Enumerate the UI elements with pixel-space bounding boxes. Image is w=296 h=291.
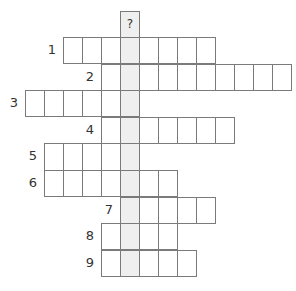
clue-number-9: 9 (74, 255, 94, 270)
answer-cell[interactable] (82, 143, 102, 170)
answer-cell[interactable] (158, 197, 178, 224)
answer-cell[interactable] (139, 64, 159, 91)
keyword-cell[interactable] (120, 117, 140, 144)
answer-cell[interactable] (234, 64, 254, 91)
answer-cell[interactable] (101, 170, 121, 197)
answer-cell[interactable] (63, 143, 83, 170)
keyword-cell[interactable] (120, 37, 140, 64)
answer-cell[interactable] (101, 117, 121, 144)
answer-cell[interactable] (139, 223, 159, 250)
answer-cell[interactable] (177, 37, 197, 64)
clue-number-4: 4 (74, 122, 94, 137)
answer-cell[interactable] (63, 90, 83, 117)
answer-cell[interactable] (101, 37, 121, 64)
clue-number-1: 1 (36, 42, 56, 57)
crossword-puzzle: ?123456789 (0, 0, 296, 291)
answer-cell[interactable] (101, 90, 121, 117)
answer-cell[interactable] (101, 64, 121, 91)
answer-cell[interactable] (158, 250, 178, 277)
answer-cell[interactable] (44, 90, 64, 117)
answer-cell[interactable] (82, 90, 102, 117)
answer-cell[interactable] (158, 37, 178, 64)
answer-cell[interactable] (196, 64, 216, 91)
answer-cell[interactable] (101, 223, 121, 250)
answer-cell[interactable] (139, 197, 159, 224)
answer-cell[interactable] (272, 64, 292, 91)
clue-number-5: 5 (17, 148, 37, 163)
keyword-hint-cell: ? (120, 11, 140, 38)
keyword-cell[interactable] (120, 143, 140, 170)
answer-cell[interactable] (101, 143, 121, 170)
clue-number-7: 7 (93, 202, 113, 217)
keyword-cell[interactable] (120, 64, 140, 91)
keyword-cell[interactable] (120, 223, 140, 250)
answer-cell[interactable] (177, 117, 197, 144)
clue-number-8: 8 (74, 228, 94, 243)
answer-cell[interactable] (101, 250, 121, 277)
answer-cell[interactable] (158, 170, 178, 197)
answer-cell[interactable] (82, 170, 102, 197)
answer-cell[interactable] (82, 37, 102, 64)
answer-cell[interactable] (177, 64, 197, 91)
keyword-cell[interactable] (120, 197, 140, 224)
answer-cell[interactable] (139, 170, 159, 197)
answer-cell[interactable] (215, 64, 235, 91)
answer-cell[interactable] (139, 250, 159, 277)
answer-cell[interactable] (196, 37, 216, 64)
answer-cell[interactable] (177, 250, 197, 277)
clue-number-6: 6 (17, 175, 37, 190)
keyword-cell[interactable] (120, 90, 140, 117)
answer-cell[interactable] (215, 117, 235, 144)
answer-cell[interactable] (63, 170, 83, 197)
answer-cell[interactable] (158, 64, 178, 91)
answer-cell[interactable] (139, 117, 159, 144)
answer-cell[interactable] (139, 37, 159, 64)
clue-number-2: 2 (74, 69, 94, 84)
answer-cell[interactable] (158, 223, 178, 250)
answer-cell[interactable] (196, 117, 216, 144)
keyword-cell[interactable] (120, 250, 140, 277)
answer-cell[interactable] (177, 197, 197, 224)
clue-number-3: 3 (0, 95, 18, 110)
answer-cell[interactable] (44, 143, 64, 170)
answer-cell[interactable] (25, 90, 45, 117)
answer-cell[interactable] (196, 197, 216, 224)
answer-cell[interactable] (44, 170, 64, 197)
answer-cell[interactable] (63, 37, 83, 64)
answer-cell[interactable] (158, 117, 178, 144)
answer-cell[interactable] (253, 64, 273, 91)
keyword-cell[interactable] (120, 170, 140, 197)
